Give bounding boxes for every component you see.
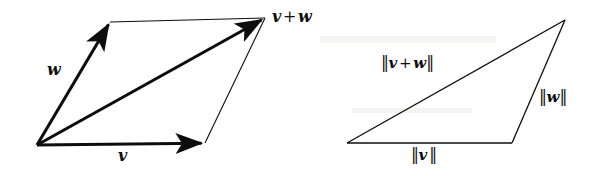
vector-w-arrow — [37, 25, 109, 146]
label-norm-sum-plus-operator: + — [397, 54, 413, 72]
label-sum-left-operand: v — [272, 7, 282, 26]
parallelogram-side-right — [205, 18, 265, 143]
label-norm-w: ‖w‖ — [539, 89, 567, 105]
parallelogram-panel — [37, 18, 265, 145]
parallelogram-side-top — [110, 18, 265, 22]
label-vector-v: v — [118, 148, 128, 164]
vector-addition-figure: w v v+w ‖v+w‖ ‖w‖ ‖v‖ — [0, 0, 615, 176]
label-norm-v: ‖v‖ — [411, 147, 437, 163]
label-norm-w-operand: w — [546, 88, 559, 106]
norm-bar-close-icon: ‖ — [429, 145, 436, 164]
label-norm-v-plus-w: ‖v+w‖ — [381, 55, 434, 71]
vector-v-arrow — [37, 143, 202, 145]
label-vector-w-text: w — [47, 60, 61, 79]
label-vector-v-plus-w: v+w — [272, 9, 312, 25]
triangle-side-hypotenuse — [347, 20, 565, 143]
norm-bar-close-icon: ‖ — [560, 87, 567, 106]
label-vector-w: w — [47, 62, 61, 78]
label-vector-v-text: v — [118, 146, 128, 165]
label-sum-right-operand: w — [298, 7, 312, 26]
norm-bar-close-icon: ‖ — [426, 53, 433, 72]
label-norm-sum-right-operand: w — [413, 54, 426, 72]
label-sum-plus-operator: + — [282, 7, 299, 26]
triangle-side-right — [512, 20, 565, 143]
figure-canvas — [0, 0, 615, 176]
vector-v-plus-w-arrow — [37, 20, 262, 145]
triangle-panel — [347, 20, 565, 143]
label-norm-v-operand: v — [418, 146, 429, 164]
